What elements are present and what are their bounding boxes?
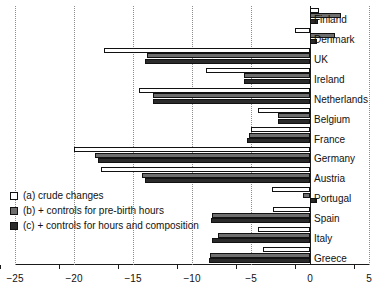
category-label: Austria xyxy=(314,174,345,184)
x-axis-tick xyxy=(118,265,119,269)
bar-a xyxy=(263,247,310,252)
legend-swatch-c-icon xyxy=(10,222,18,230)
bar-b xyxy=(210,253,310,258)
bar-b xyxy=(95,153,310,158)
category-label: UK xyxy=(314,55,328,65)
legend-item[interactable]: (a) crude changes xyxy=(10,188,199,203)
bar-b xyxy=(218,233,310,238)
bar-b xyxy=(244,73,310,78)
bar-chart: −25−20−15−10−505FinlandDenmarkUKIrelandN… xyxy=(0,0,376,294)
bar-a xyxy=(251,127,310,132)
x-axis-tick xyxy=(59,265,60,269)
x-axis-tick-label: 0 xyxy=(307,274,313,284)
gridline xyxy=(369,6,370,265)
bar-c xyxy=(209,258,310,263)
category-label: France xyxy=(314,135,345,145)
legend-swatch-a-icon xyxy=(10,192,18,200)
bar-a xyxy=(273,207,310,212)
x-axis-tick-label: −10 xyxy=(184,274,201,284)
bar-b xyxy=(303,193,310,198)
legend-swatch-b-icon xyxy=(10,207,18,215)
x-axis-tick-label: −5 xyxy=(245,274,256,284)
bar-c xyxy=(278,119,310,124)
bar-b xyxy=(147,53,310,58)
category-label: Portugal xyxy=(314,194,351,204)
x-axis-tick xyxy=(177,265,178,269)
legend-item[interactable]: (c) + controls for hours and composition xyxy=(10,218,199,233)
bar-c xyxy=(212,238,310,243)
bar-c xyxy=(247,138,310,143)
bar-a xyxy=(310,8,319,13)
x-axis-tick-label: −25 xyxy=(7,274,24,284)
x-axis-tick-label: −20 xyxy=(66,274,83,284)
x-axis-tick xyxy=(295,265,296,269)
x-axis-tick xyxy=(354,265,355,269)
category-label: Ireland xyxy=(314,75,345,85)
x-axis-tick-label: −15 xyxy=(125,274,142,284)
legend-label: (b) + controls for pre-birth hours xyxy=(23,206,164,216)
bar-a xyxy=(101,167,310,172)
category-label: Greece xyxy=(314,254,347,264)
bar-b xyxy=(142,173,310,178)
category-label: Germany xyxy=(314,154,355,164)
bar-a xyxy=(272,187,310,192)
x-axis-tick xyxy=(236,265,237,269)
legend-item[interactable]: (b) + controls for pre-birth hours xyxy=(10,203,199,218)
bar-a xyxy=(258,227,310,232)
bar-b xyxy=(212,213,310,218)
bar-c xyxy=(145,178,310,183)
bar-b xyxy=(249,133,310,138)
bar-a xyxy=(258,108,310,113)
x-axis-tick xyxy=(0,265,1,269)
category-label: Finland xyxy=(314,15,347,25)
legend-label: (a) crude changes xyxy=(23,191,104,201)
legend-label: (c) + controls for hours and composition xyxy=(23,221,199,231)
bar-c xyxy=(211,218,310,223)
bar-b xyxy=(278,113,310,118)
bar-c xyxy=(145,59,310,64)
legend: (a) crude changes(b) + controls for pre-… xyxy=(10,188,199,233)
category-label: Spain xyxy=(314,214,340,224)
bar-b xyxy=(153,93,310,98)
x-axis-tick-label: 5 xyxy=(366,274,372,284)
bar-c xyxy=(153,99,310,104)
bar-a xyxy=(74,147,310,152)
category-label: Italy xyxy=(314,234,332,244)
category-label: Denmark xyxy=(314,35,355,45)
bar-c xyxy=(244,79,310,84)
category-label: Netherlands xyxy=(314,95,368,105)
bar-c xyxy=(98,158,310,163)
bar-a xyxy=(139,88,310,93)
bar-a xyxy=(206,68,310,73)
bar-a xyxy=(295,28,310,33)
category-label: Belgium xyxy=(314,115,350,125)
bar-a xyxy=(104,48,311,53)
